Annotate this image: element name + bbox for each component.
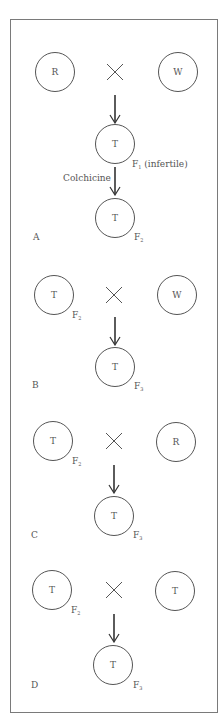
arrow-down-icon xyxy=(109,317,121,346)
arrow-down-icon xyxy=(109,95,121,124)
gen-subscript: 2 xyxy=(78,461,81,467)
offspring-circle: T xyxy=(95,347,135,387)
parent-label: T xyxy=(172,586,178,596)
parent-circle-t: T xyxy=(34,275,74,315)
parent-circle-t: T xyxy=(32,570,72,610)
offspring-circle: T xyxy=(94,496,134,536)
parent-circle-t-right: T xyxy=(155,571,195,611)
cross-icon xyxy=(104,580,124,600)
arrow-down-icon xyxy=(108,614,120,643)
infertile-note: (infertile) xyxy=(144,159,187,169)
offspring-label: T xyxy=(112,362,118,372)
section-label-b: B xyxy=(32,380,39,390)
f1-label: T xyxy=(112,139,118,149)
section-label-a: A xyxy=(33,232,40,242)
parent-generation-label: F2 xyxy=(72,456,81,467)
gen-subscript: 1 xyxy=(138,164,141,170)
offspring-generation-label: F3 xyxy=(133,530,142,541)
section-label-c: C xyxy=(31,530,38,540)
gen-subscript: 2 xyxy=(140,237,143,243)
cross-icon xyxy=(105,62,125,82)
colchicine-label: Colchicine xyxy=(63,173,111,183)
offspring-circle: T xyxy=(93,645,133,685)
arrow-down-icon xyxy=(109,167,121,196)
parent-label: R xyxy=(173,437,180,447)
parent-generation-label: F2 xyxy=(72,310,81,321)
parent-circle-w: W xyxy=(158,52,198,92)
parent-label: W xyxy=(173,67,182,77)
gen-subscript: 3 xyxy=(139,535,142,541)
offspring-circle: T xyxy=(95,198,135,238)
gen-subscript: 3 xyxy=(140,386,143,392)
parent-generation-label: F2 xyxy=(71,605,80,616)
parent-circle-r: R xyxy=(35,52,75,92)
offspring-generation-label: F3 xyxy=(133,680,142,691)
cross-icon xyxy=(104,431,124,451)
parent-label: T xyxy=(50,436,56,446)
arrow-down-icon xyxy=(108,465,120,494)
parent-circle-t: T xyxy=(33,421,73,461)
section-label-d: D xyxy=(31,680,38,690)
parent-label: R xyxy=(52,67,59,77)
parent-label: T xyxy=(51,290,57,300)
parent-circle-w: W xyxy=(157,275,197,315)
offspring-generation-label: F3 xyxy=(134,381,143,392)
offspring-generation-label: F2 xyxy=(134,232,143,243)
parent-circle-r: R xyxy=(156,422,196,462)
cross-icon xyxy=(104,285,124,305)
f1-circle: T xyxy=(95,124,135,164)
gen-subscript: 2 xyxy=(77,610,80,616)
offspring-label: T xyxy=(112,213,118,223)
gen-subscript: 3 xyxy=(139,685,142,691)
parent-label: W xyxy=(172,290,181,300)
gen-subscript: 2 xyxy=(78,315,81,321)
offspring-label: T xyxy=(111,511,117,521)
f1-generation-label: F1 (infertile) xyxy=(132,159,188,170)
parent-label: T xyxy=(49,585,55,595)
offspring-label: T xyxy=(110,660,116,670)
